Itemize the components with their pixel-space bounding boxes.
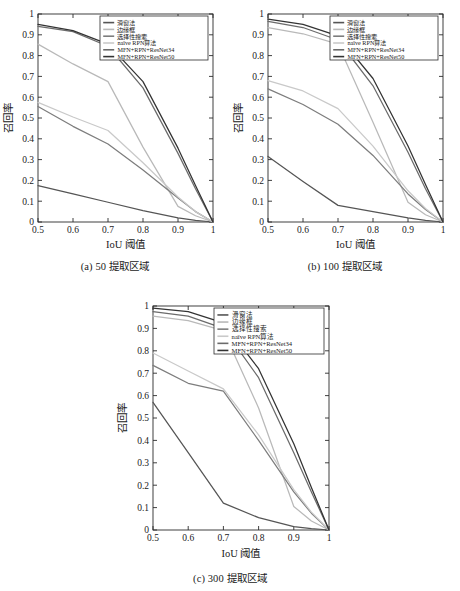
caption-a: (a) 50 提取区域 — [0, 258, 230, 273]
y-tick-label: 0.4 — [22, 134, 34, 144]
chart-panel-a: 0.50.60.70.80.9100.10.20.30.40.50.60.70.… — [0, 0, 230, 278]
y-tick-label: 0.6 — [252, 93, 264, 103]
y-tick-label: 0.9 — [252, 30, 264, 40]
x-tick-label: 0.9 — [288, 533, 300, 543]
plot-area-a: 0.50.60.70.80.9100.10.20.30.40.50.60.70.… — [0, 0, 230, 278]
y-tick-label: 0.7 — [137, 369, 149, 379]
plot-area-c: 0.50.60.70.80.9100.10.20.30.40.50.60.70.… — [113, 290, 347, 590]
y-tick-label: 1 — [259, 9, 264, 19]
y-axis-title: 召回率 — [116, 403, 128, 433]
y-tick-label: 0.6 — [137, 391, 149, 401]
legend-label: MFN+RPN+ResNet50 — [232, 347, 293, 354]
plot-area-b: 0.50.60.70.80.9100.10.20.30.40.50.60.70.… — [230, 0, 460, 278]
y-tick-label: 0.5 — [252, 113, 264, 123]
x-tick-label: 0.9 — [172, 225, 184, 235]
x-tick-label: 1 — [441, 225, 446, 235]
x-tick-label: 1 — [211, 225, 216, 235]
y-tick-label: 0.7 — [22, 72, 34, 82]
chart-panel-c: 0.50.60.70.80.9100.10.20.30.40.50.60.70.… — [113, 290, 347, 590]
chart-panel-b: 0.50.60.70.80.9100.10.20.30.40.50.60.70.… — [230, 0, 460, 278]
y-axis-title: 召回率 — [2, 103, 14, 133]
x-tick-label: 0.8 — [253, 533, 265, 543]
x-axis-title: IoU 阈值 — [106, 238, 146, 250]
y-tick-label: 0.9 — [137, 324, 149, 334]
y-tick-label: 0.8 — [137, 346, 149, 356]
x-tick-label: 0.6 — [182, 533, 194, 543]
y-tick-label: 0.8 — [22, 51, 34, 61]
recall-iou-chart-b: 0.50.60.70.80.9100.10.20.30.40.50.60.70.… — [230, 0, 460, 258]
x-tick-label: 0.6 — [297, 225, 309, 235]
legend-label: MFN+RPN+ResNet50 — [347, 53, 404, 60]
y-tick-label: 0.1 — [137, 503, 149, 513]
legend-label: MFN+RPN+ResNet50 — [117, 53, 174, 60]
y-tick-label: 0.5 — [22, 113, 34, 123]
y-tick-label: 0.1 — [252, 197, 264, 207]
x-tick-label: 0.9 — [402, 225, 414, 235]
y-tick-label: 0.2 — [252, 176, 264, 186]
y-tick-label: 0 — [259, 217, 264, 227]
y-tick-label: 0.9 — [22, 30, 34, 40]
y-tick-label: 1 — [144, 301, 149, 311]
y-tick-label: 0.3 — [137, 458, 149, 468]
y-axis-title: 召回率 — [232, 103, 244, 133]
y-tick-label: 0.4 — [137, 436, 149, 446]
x-tick-label: 0.8 — [137, 225, 149, 235]
x-tick-label: 0.6 — [67, 225, 79, 235]
y-tick-label: 0.7 — [252, 72, 264, 82]
recall-iou-chart-a: 0.50.60.70.80.9100.10.20.30.40.50.60.70.… — [0, 0, 230, 258]
y-tick-label: 0.8 — [252, 51, 264, 61]
y-tick-label: 0.1 — [22, 197, 34, 207]
caption-c: (c) 300 提取区域 — [113, 570, 347, 585]
y-tick-label: 0.6 — [22, 93, 34, 103]
x-tick-label: 1 — [327, 533, 332, 543]
x-axis-title: IoU 阈值 — [222, 547, 262, 559]
y-tick-label: 0.5 — [137, 413, 149, 423]
x-tick-label: 0.7 — [332, 225, 344, 235]
y-tick-label: 0.2 — [137, 481, 149, 491]
caption-b: (b) 100 提取区域 — [230, 258, 460, 273]
y-tick-label: 0.3 — [252, 155, 264, 165]
y-tick-label: 0 — [144, 525, 149, 535]
y-tick-label: 0.3 — [22, 155, 34, 165]
x-tick-label: 0.7 — [217, 533, 229, 543]
x-tick-label: 0.8 — [367, 225, 379, 235]
x-tick-label: 0.7 — [102, 225, 114, 235]
legend-label: MFN+RPN+ResNet34 — [232, 340, 293, 347]
y-tick-label: 0.2 — [22, 176, 34, 186]
x-axis-title: IoU 阈值 — [336, 238, 376, 250]
y-tick-label: 0.4 — [252, 134, 264, 144]
y-tick-label: 0 — [29, 217, 34, 227]
y-tick-label: 1 — [29, 9, 34, 19]
figure-root: 0.50.60.70.80.9100.10.20.30.40.50.60.70.… — [0, 0, 460, 591]
recall-iou-chart-c: 0.50.60.70.80.9100.10.20.30.40.50.60.70.… — [113, 290, 347, 570]
